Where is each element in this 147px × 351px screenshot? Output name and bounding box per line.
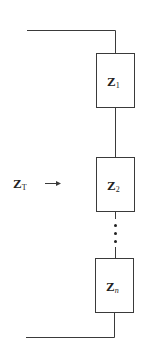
top-wire (27, 31, 116, 54)
input-impedance-label: ZT (13, 177, 27, 192)
ellipsis-dot-icon (114, 240, 117, 243)
right-arrow-icon (56, 181, 61, 186)
bottom-wire (26, 313, 115, 338)
impedance-label-zn: Zn (106, 280, 119, 295)
ellipsis-dot-icon (114, 232, 117, 235)
impedance-label-z2: Z2 (107, 179, 120, 194)
impedance-label-z1: Z1 (107, 75, 120, 90)
ellipsis-dot-icon (114, 224, 117, 227)
circuit-diagram (0, 0, 147, 351)
